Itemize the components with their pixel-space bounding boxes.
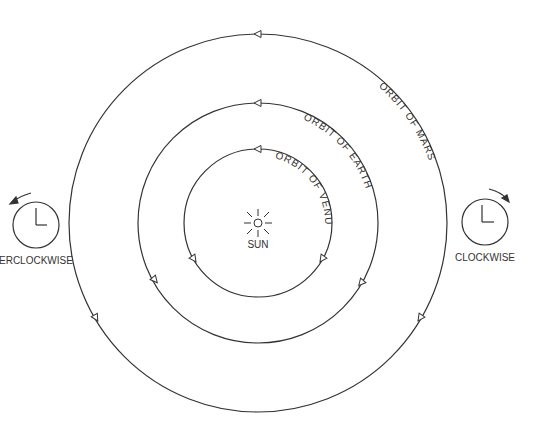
arrow-icon [254, 31, 261, 38]
orbit-diagram: ORBIT OF MARS ORBIT OF EARTH ORBIT OF VE… [0, 0, 544, 435]
arrow-icon [254, 100, 261, 107]
arrow-icon [254, 146, 261, 153]
arrow-icon [189, 254, 199, 264]
clockwise-label: CLOCKWISE [455, 252, 515, 263]
arrow-icon [317, 254, 327, 264]
label-orbit-venus: ORBIT OF VENUS [0, 0, 334, 226]
clockwise-clock-icon [462, 189, 509, 245]
counterclockwise-label: ERCLOCKWISE [0, 255, 73, 266]
label-orbit-mars: ORBIT OF MARS [377, 80, 438, 163]
sun-label: SUN [247, 239, 268, 250]
counterclockwise-clock-icon [10, 193, 59, 248]
sun-icon [244, 209, 272, 237]
